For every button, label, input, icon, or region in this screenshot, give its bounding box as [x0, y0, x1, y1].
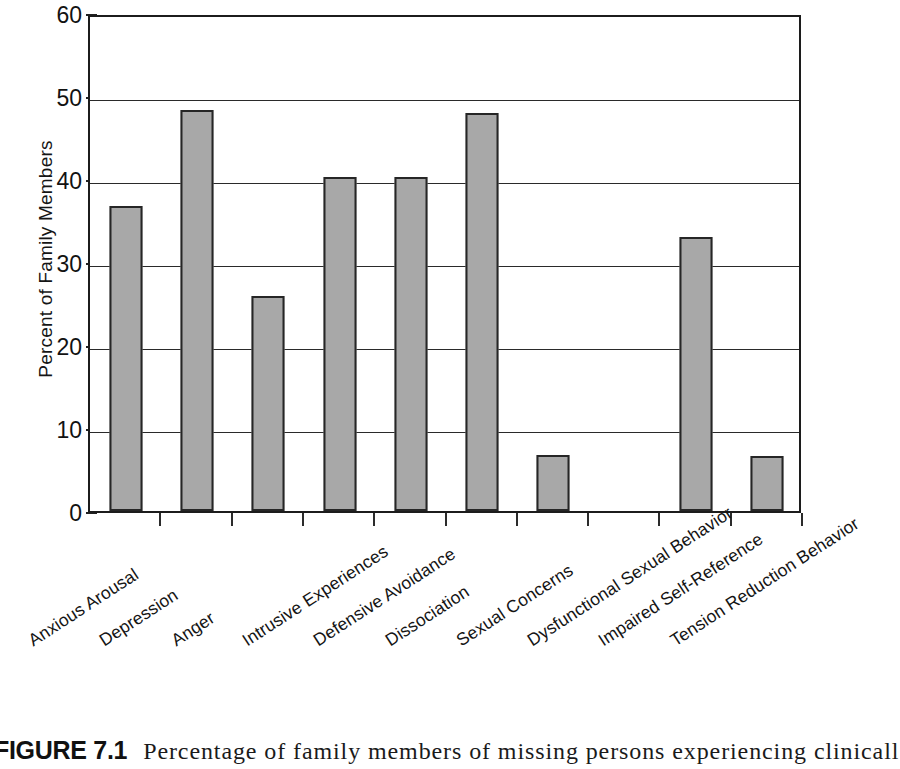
y-axis-tick-label: 50: [56, 87, 82, 110]
x-axis-category-label: Sexual Concerns: [452, 560, 576, 651]
y-axis-tick-labels: 0102030405060: [38, 0, 86, 545]
y-axis-tick-label: 10: [56, 419, 82, 442]
bar-slot: [660, 17, 731, 511]
y-axis-tick-label: 20: [56, 336, 82, 359]
bar-slot: [304, 17, 375, 511]
y-axis-tick-label: 40: [56, 170, 82, 193]
bar-slot: [589, 17, 660, 511]
bar[interactable]: [252, 296, 285, 511]
bar-slot: [161, 17, 232, 511]
chart-plot-wrapper: Percent of Family Members 0102030405060 …: [0, 0, 822, 545]
bar[interactable]: [394, 177, 427, 511]
plot-area: [88, 15, 801, 513]
figure-caption-text: Percentage of family members of missing …: [143, 738, 899, 764]
bar[interactable]: [109, 206, 142, 511]
bar-slot: [233, 17, 304, 511]
bar-slot: [90, 17, 161, 511]
x-axis-category-label: Anger: [167, 608, 218, 651]
bar-slot: [518, 17, 589, 511]
bar-slot: [732, 17, 803, 511]
bar-slot: [447, 17, 518, 511]
bar[interactable]: [680, 237, 713, 511]
figure-caption: FIGURE 7.1Percentage of family members o…: [0, 736, 900, 769]
bars-group: [90, 17, 799, 511]
x-axis-category-labels: Anxious ArousalDepressionAngerIntrusive …: [0, 520, 822, 735]
bar[interactable]: [466, 113, 499, 511]
y-axis-tick-label: 30: [56, 253, 82, 276]
y-axis-tick-label: 60: [56, 4, 82, 27]
bar[interactable]: [751, 456, 784, 511]
figure-caption-label: FIGURE 7.1: [0, 736, 127, 764]
bar-slot: [375, 17, 446, 511]
bar[interactable]: [323, 177, 356, 511]
bar[interactable]: [537, 455, 570, 511]
bar[interactable]: [180, 110, 213, 511]
